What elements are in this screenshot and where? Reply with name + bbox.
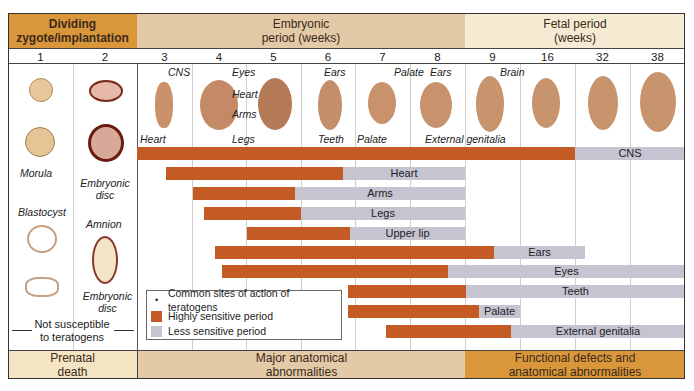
chart-frame <box>8 13 685 379</box>
